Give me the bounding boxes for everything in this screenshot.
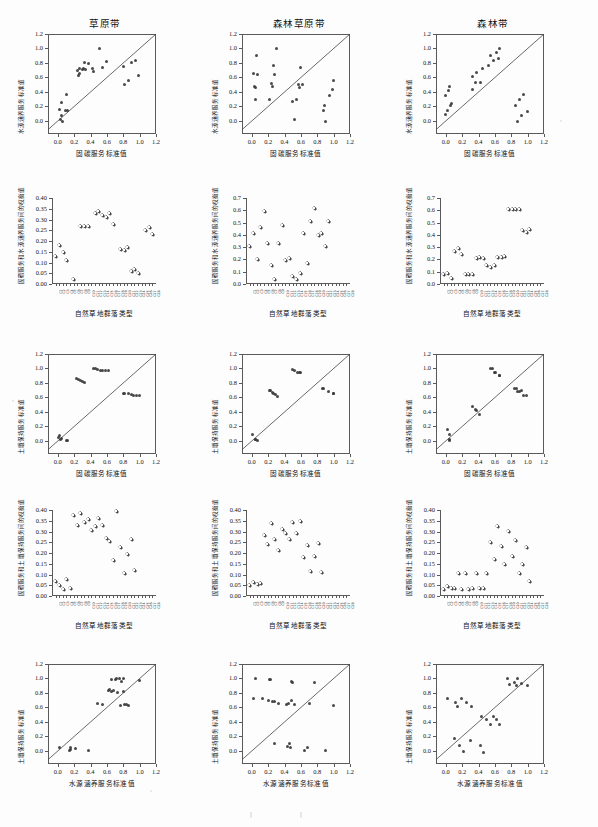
y-tick-label: 0.8 (202, 59, 237, 66)
x-tick (508, 596, 509, 598)
x-tick (469, 596, 470, 598)
x-tick (334, 764, 335, 767)
data-point (516, 677, 519, 680)
panel-r4c2: 0.000.050.100.150.200.250.300.350.40C1C2… (202, 498, 396, 648)
data-point (262, 210, 265, 213)
x-tick (260, 284, 261, 286)
data-point (273, 73, 276, 76)
data-point (442, 588, 445, 591)
data-point (313, 555, 316, 558)
data-point (320, 232, 323, 235)
x-tick-label: 1.2 (340, 768, 360, 775)
x-tick (336, 284, 337, 286)
data-point (447, 89, 450, 92)
data-point (514, 539, 517, 542)
x-tick (109, 596, 110, 598)
data-point (90, 529, 93, 532)
y-axis-title: 土壤保持服务标准值 (17, 399, 25, 454)
data-point (332, 704, 335, 707)
x-tick (462, 284, 463, 286)
y-tick-label: 0.4 (202, 231, 241, 238)
x-tick (495, 454, 496, 457)
data-point (111, 559, 114, 562)
y-tick (49, 220, 52, 221)
y-tick-label: 0.3 (396, 243, 435, 250)
x-tick (301, 764, 302, 767)
data-point (309, 220, 312, 223)
data-point (498, 47, 501, 50)
y-tick-label: 0.6 (396, 703, 431, 710)
x-tick (66, 284, 67, 286)
x-tick (268, 764, 269, 767)
data-point (83, 61, 86, 64)
y-tick (239, 664, 242, 665)
data-point (58, 244, 61, 247)
x-tick (490, 596, 491, 598)
data-point (482, 257, 485, 260)
y-tick-label: 0.00 (396, 592, 435, 599)
data-point (298, 86, 301, 89)
data-point (513, 681, 516, 684)
data-point (495, 718, 498, 721)
x-tick (454, 284, 455, 286)
y-tick (49, 553, 52, 554)
x-tick (497, 596, 498, 598)
scan-artifact (560, 120, 562, 122)
data-point (448, 433, 451, 436)
x-tick (314, 284, 315, 286)
x-tick (140, 134, 141, 137)
x-tick (526, 284, 527, 286)
x-tick (156, 134, 157, 137)
data-point (291, 275, 294, 278)
y-tick-label: 0.35 (8, 517, 47, 524)
y-tick (239, 693, 242, 694)
y-tick (243, 564, 246, 565)
y-tick (45, 368, 48, 369)
data-point (299, 66, 302, 69)
data-point (137, 74, 140, 77)
data-point (475, 71, 478, 74)
x-tick (74, 134, 75, 137)
x-tick (307, 596, 308, 598)
y-tick-label: 1.2 (396, 350, 431, 357)
data-point (78, 72, 81, 75)
y-axis-title: 固碳服务和水源涵养服务间的权衡值 (17, 186, 25, 284)
y-tick-label: 1.0 (8, 44, 43, 51)
x-tick (264, 284, 265, 286)
panel-r3c1: 0.00.20.40.60.81.01.20.00.20.40.60.81.01… (8, 338, 202, 498)
y-axis-title: 固碳服务和土壤保持服务间的权衡值 (405, 498, 413, 596)
x-tick (465, 284, 466, 286)
data-point (259, 582, 262, 585)
data-point (528, 227, 531, 230)
y-tick (437, 510, 440, 511)
data-point (252, 697, 255, 700)
data-point (526, 110, 529, 113)
data-point (101, 524, 104, 527)
x-tick (152, 596, 153, 598)
data-point (460, 588, 463, 591)
x-tick (117, 596, 118, 598)
x-tick (446, 764, 447, 767)
y-tick-label: 0.7 (396, 194, 435, 201)
data-point (520, 389, 523, 392)
x-tick (77, 596, 78, 598)
x-tick (501, 596, 502, 598)
y-tick-label: 0.8 (396, 379, 431, 386)
x-tick (109, 284, 110, 286)
y-axis-title: 土壤保持服务标准值 (211, 399, 219, 454)
data-point (308, 702, 311, 705)
x-tick (350, 454, 351, 457)
x-tick (528, 764, 529, 767)
y-tick-label: 0.2 (202, 255, 241, 262)
data-point (108, 212, 111, 215)
y-tick (243, 521, 246, 522)
x-tick (91, 454, 92, 457)
x-tick (479, 596, 480, 598)
data-point (454, 701, 457, 704)
data-point (79, 512, 82, 515)
data-point (320, 571, 323, 574)
x-axis-title: 水源涵养服务标准值 (48, 778, 156, 788)
data-point (522, 93, 525, 96)
x-tick (278, 596, 279, 598)
x-tick (515, 596, 516, 598)
